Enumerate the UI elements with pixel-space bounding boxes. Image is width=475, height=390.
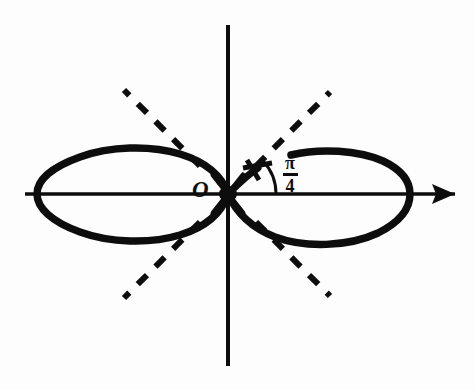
lemniscate-figure: O π 4	[0, 0, 475, 390]
origin-label: O	[192, 178, 209, 201]
axes-group	[25, 25, 455, 366]
angle-label-pi-over-4: π 4	[277, 154, 303, 195]
angle-label-numerator: π	[277, 154, 303, 173]
angle-label-denominator: 4	[277, 177, 303, 195]
figure-canvas	[0, 0, 475, 390]
